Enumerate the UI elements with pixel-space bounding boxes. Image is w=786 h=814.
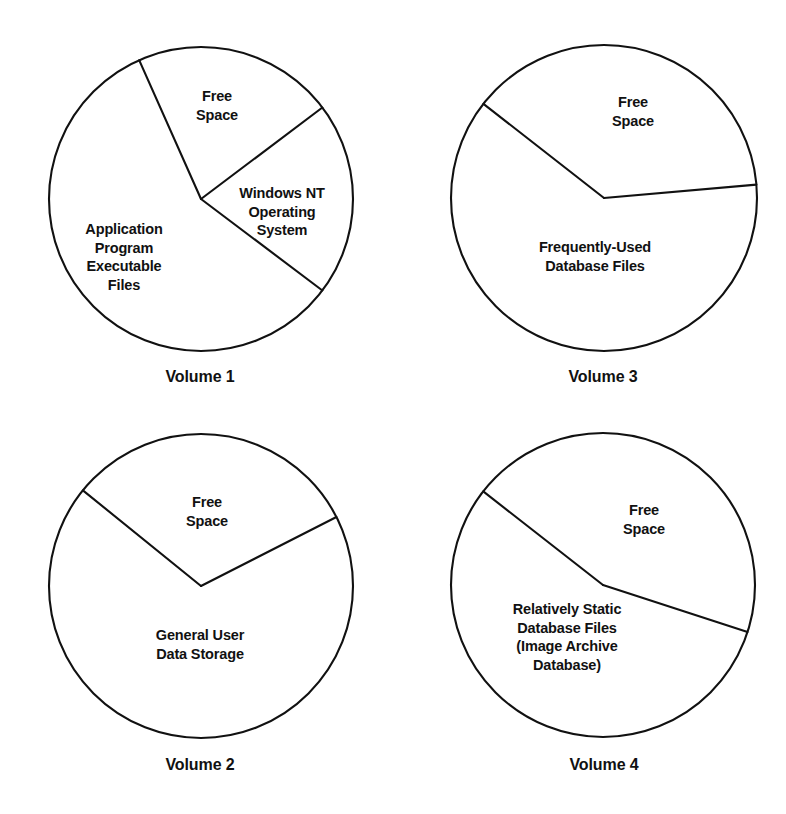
volume-caption: Volume 1 <box>165 368 234 386</box>
volume-allocation-figure: Free SpaceApplication Program Executable… <box>0 0 786 814</box>
pie-charts-canvas <box>0 0 786 814</box>
pie-chart-2 <box>451 45 757 351</box>
volume-caption: Volume 2 <box>165 756 234 774</box>
volume-caption: Volume 3 <box>568 368 637 386</box>
pie-chart-1 <box>49 47 353 351</box>
pie-chart-3 <box>49 434 353 738</box>
pie-chart-4 <box>451 433 755 737</box>
volume-caption: Volume 4 <box>569 756 638 774</box>
